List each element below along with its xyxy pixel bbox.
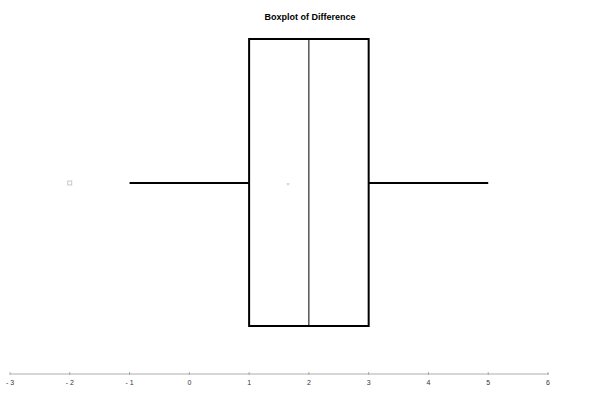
boxplot-plot-area: - 3- 2- 10123456 × [0, 0, 590, 414]
x-tick-label: - 1 [125, 379, 133, 386]
x-tick-label: 0 [187, 379, 191, 386]
x-axis: - 3- 2- 10123456 [6, 372, 550, 386]
x-tick-label: 2 [307, 379, 311, 386]
outlier-marker [68, 181, 72, 185]
box: × [68, 39, 488, 326]
x-tick-label: 5 [486, 379, 490, 386]
x-tick-label: 1 [247, 379, 251, 386]
x-tick-label: - 3 [6, 379, 14, 386]
x-tick-label: 6 [546, 379, 550, 386]
x-tick-label: - 2 [66, 379, 74, 386]
x-tick-label: 4 [426, 379, 430, 386]
mean-marker: × [286, 181, 290, 187]
x-tick-label: 3 [367, 379, 371, 386]
